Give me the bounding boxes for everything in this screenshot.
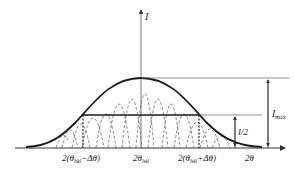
x-tick-center: 2θhkl [133,153,150,164]
diffraction-peak-diagram: I Imax I/2 2(θhkl−Δθ) 2θhkl 2(θhkl+Δθ) 2… [0,0,294,172]
x-tick-plus: 2(θhkl+Δθ) [178,153,216,164]
x-axis-label: 2θ [245,153,255,163]
y-axis-label: I [144,11,149,22]
half-label: I/2 [237,127,248,137]
x-tick-minus: 2(θhkl−Δθ) [62,153,100,164]
imax-label: Imax [271,108,286,120]
